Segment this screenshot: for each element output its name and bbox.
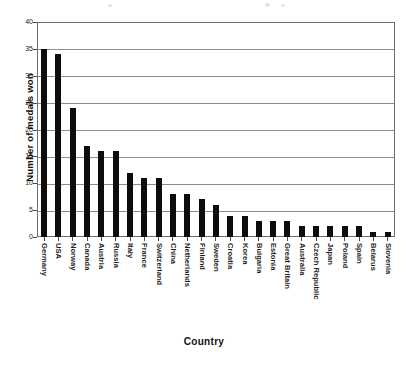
x-tick-label: Korea (241, 243, 249, 265)
x-tick-label: Great Britain (283, 243, 291, 289)
x-label-slot: Croatia (223, 243, 237, 327)
x-tick-label: Germany (40, 243, 48, 276)
x-tick-slot (80, 237, 94, 241)
x-tick-slot (252, 237, 266, 241)
x-tick-slot (152, 237, 166, 241)
x-label-slot: Slovenia (381, 243, 395, 327)
x-tick-slot (381, 237, 395, 241)
gridline (38, 184, 394, 185)
x-label-slot: Belarus (366, 243, 380, 327)
x-label-slot: Bulgaria (252, 243, 266, 327)
x-tick-slot (338, 237, 352, 241)
x-tick-slot (166, 237, 180, 241)
x-axis-ticks (37, 237, 395, 241)
x-tick-label: Finland (198, 243, 206, 270)
x-tick-mark (230, 237, 231, 241)
x-tick-mark (115, 237, 116, 241)
x-label-slot: USA (51, 243, 65, 327)
gridline (38, 49, 394, 50)
x-tick-mark (158, 237, 159, 241)
x-tick-mark (344, 237, 345, 241)
x-tick-slot (51, 237, 65, 241)
medals-bar-chart: Number of medals won 0510152025303540 Ge… (0, 0, 408, 365)
x-label-slot: Netherlands (180, 243, 194, 327)
x-tick-slot (137, 237, 151, 241)
x-tick-mark (301, 237, 302, 241)
x-tick-mark (244, 237, 245, 241)
scan-artifact (265, 3, 270, 7)
x-tick-mark (373, 237, 374, 241)
x-tick-mark (287, 237, 288, 241)
x-axis-category-labels: GermanyUSANorwayCanadaAustriaRussiaItaly… (37, 243, 395, 327)
gridline (38, 76, 394, 77)
x-tick-label: Belarus (369, 243, 377, 271)
x-tick-label: China (169, 243, 177, 264)
x-tick-label: Croatia (226, 243, 234, 269)
y-tick-label: 30 (3, 72, 33, 79)
plot-area (37, 22, 395, 237)
x-tick-label: Netherlands (183, 243, 191, 287)
x-tick-slot (180, 237, 194, 241)
x-tick-mark (359, 237, 360, 241)
x-tick-mark (215, 237, 216, 241)
x-label-slot: France (137, 243, 151, 327)
x-tick-label: Bulgaria (255, 243, 263, 273)
y-tick-label: 5 (3, 206, 33, 213)
x-tick-mark (130, 237, 131, 241)
x-tick-slot (123, 237, 137, 241)
x-label-slot: Czech Republic (309, 243, 323, 327)
x-tick-slot (237, 237, 251, 241)
x-label-slot: Italy (123, 243, 137, 327)
x-label-slot: Germany (37, 243, 51, 327)
x-label-slot: Great Britain (280, 243, 294, 327)
x-tick-slot (66, 237, 80, 241)
x-label-slot: Japan (323, 243, 337, 327)
x-tick-mark (330, 237, 331, 241)
x-tick-mark (44, 237, 45, 241)
x-label-slot: Estonia (266, 243, 280, 327)
x-tick-mark (273, 237, 274, 241)
x-label-slot: Norway (66, 243, 80, 327)
x-tick-label: Spain (355, 243, 363, 264)
x-tick-slot (280, 237, 294, 241)
x-tick-label: USA (54, 243, 62, 259)
gridline (38, 157, 394, 158)
x-tick-mark (316, 237, 317, 241)
x-axis-title: Country (0, 336, 408, 347)
x-tick-label: Switzerland (155, 243, 163, 285)
x-tick-mark (58, 237, 59, 241)
y-tick-label: 25 (3, 99, 33, 106)
x-tick-mark (187, 237, 188, 241)
y-tick-label: 15 (3, 152, 33, 159)
x-label-slot: Poland (338, 243, 352, 327)
y-tick-label: 20 (3, 126, 33, 133)
x-tick-slot (323, 237, 337, 241)
x-tick-slot (352, 237, 366, 241)
x-tick-mark (101, 237, 102, 241)
x-label-slot: Finland (194, 243, 208, 327)
x-tick-label: Sweden (212, 243, 220, 272)
x-tick-label: Austria (97, 243, 105, 269)
x-tick-label: France (140, 243, 148, 268)
y-tick-label: 10 (3, 179, 33, 186)
gridline (38, 130, 394, 131)
x-tick-slot (223, 237, 237, 241)
y-tick-label: 35 (3, 45, 33, 52)
x-tick-slot (366, 237, 380, 241)
x-tick-label: Estonia (269, 243, 277, 270)
x-tick-slot (309, 237, 323, 241)
x-label-slot: Russia (109, 243, 123, 327)
x-tick-label: Canada (83, 243, 91, 270)
x-tick-label: Norway (69, 243, 77, 270)
x-tick-mark (72, 237, 73, 241)
x-label-slot: Austria (94, 243, 108, 327)
x-tick-slot (295, 237, 309, 241)
scan-artifact (281, 4, 285, 7)
y-tick-label: 40 (3, 18, 33, 25)
x-label-slot: Canada (80, 243, 94, 327)
x-tick-label: Czech Republic (312, 243, 320, 300)
x-tick-mark (387, 237, 388, 241)
x-tick-slot (109, 237, 123, 241)
x-tick-mark (144, 237, 145, 241)
x-tick-mark (172, 237, 173, 241)
